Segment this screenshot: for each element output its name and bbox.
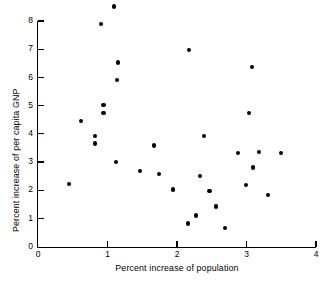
data-point <box>116 60 120 64</box>
y-tick-mark <box>38 133 44 134</box>
data-point <box>244 183 248 187</box>
x-tick-mark <box>107 241 108 247</box>
y-axis-line <box>37 21 38 248</box>
data-point <box>207 189 211 193</box>
data-point <box>194 213 198 217</box>
data-point <box>223 226 227 230</box>
x-tick-mark <box>246 241 247 247</box>
x-tick-mark <box>176 241 177 247</box>
data-point <box>152 143 156 147</box>
y-tick-mark <box>38 161 44 162</box>
y-tick-mark <box>38 77 44 78</box>
y-tick-label: 3 <box>19 157 33 166</box>
y-tick-mark <box>38 218 44 219</box>
x-tick-label: 2 <box>170 250 184 259</box>
y-tick-label: 6 <box>19 73 33 82</box>
y-tick-label: 8 <box>19 16 33 25</box>
x-tick-label: 1 <box>101 250 115 259</box>
y-tick-label: 5 <box>19 101 33 110</box>
data-point <box>101 111 105 115</box>
y-tick-label: 4 <box>19 129 33 138</box>
data-point <box>112 4 116 8</box>
data-point <box>251 165 255 169</box>
x-axis-line <box>38 247 316 248</box>
x-tick-label: 3 <box>240 250 254 259</box>
y-axis-title: Percent increase of per capita GNP <box>11 89 21 232</box>
x-tick-label: 0 <box>31 250 45 259</box>
data-point <box>266 193 270 197</box>
data-point <box>114 160 118 164</box>
data-point <box>171 187 175 191</box>
y-tick-mark <box>38 105 44 106</box>
data-point <box>93 141 97 145</box>
x-tick-label: 4 <box>309 250 323 259</box>
y-tick-label: 7 <box>19 44 33 53</box>
y-tick-mark <box>38 49 44 50</box>
data-point <box>198 174 202 178</box>
scatter-chart: 012345678 01234 Percent increase of popu… <box>0 0 328 282</box>
data-point <box>101 103 105 107</box>
y-tick-mark <box>38 20 44 21</box>
y-tick-mark <box>38 190 44 191</box>
x-tick-mark <box>315 241 316 247</box>
y-tick-label: 1 <box>19 214 33 223</box>
plot-area <box>38 21 316 247</box>
x-axis-title: Percent increase of population <box>38 263 316 273</box>
data-point <box>214 204 218 208</box>
data-point <box>186 221 190 225</box>
y-tick-label: 2 <box>19 185 33 194</box>
data-point <box>93 134 97 138</box>
